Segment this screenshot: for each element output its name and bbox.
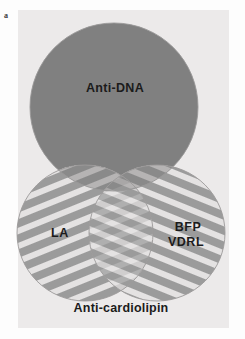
label-anti-cardiolipin: Anti-cardiolipin (74, 301, 169, 315)
label-anti-dna: Anti-DNA (86, 81, 144, 95)
label-bfp: BFP (175, 220, 202, 234)
circle-anti-dna (30, 23, 198, 191)
label-la: LA (51, 226, 69, 240)
venn-diagram: Anti-DNA LA BFP VDRL Anti-cardiolipin (0, 0, 245, 339)
figure-root: a (0, 0, 245, 339)
label-vdrl: VDRL (168, 235, 204, 249)
